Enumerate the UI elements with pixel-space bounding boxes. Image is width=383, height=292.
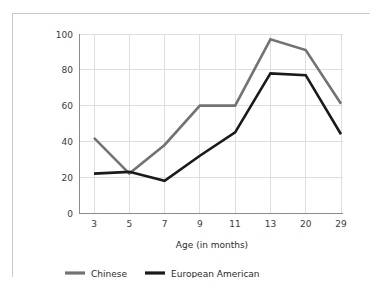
figure-frame: 100 80 60 40 20 0 3 5 7 9 11 13 20 29 Ag… — [12, 13, 370, 277]
x-axis-title: Age (in months) — [176, 240, 248, 250]
y-tick-label: 40 — [62, 137, 74, 147]
legend-label-chinese: Chinese — [91, 269, 127, 279]
y-tick-label: 20 — [62, 173, 74, 183]
y-tick-label: 0 — [67, 209, 73, 219]
x-tick-label: 7 — [162, 219, 168, 229]
x-tick-label: 5 — [126, 219, 132, 229]
x-tick-label: 13 — [265, 219, 276, 229]
y-tick-label: 60 — [62, 101, 74, 111]
y-tick-label: 80 — [62, 65, 74, 75]
x-tick-label: 3 — [91, 219, 97, 229]
x-tick-label: 20 — [300, 219, 312, 229]
chart-svg: 100 80 60 40 20 0 3 5 7 9 11 13 20 29 Ag… — [13, 14, 371, 278]
x-tick-label: 9 — [197, 219, 203, 229]
y-tick-label: 100 — [56, 30, 73, 40]
x-tick-label: 29 — [335, 219, 347, 229]
legend-label-european-american: European American — [171, 269, 260, 279]
line-chart: 100 80 60 40 20 0 3 5 7 9 11 13 20 29 Ag… — [13, 14, 371, 278]
x-tick-label: 11 — [229, 219, 240, 229]
